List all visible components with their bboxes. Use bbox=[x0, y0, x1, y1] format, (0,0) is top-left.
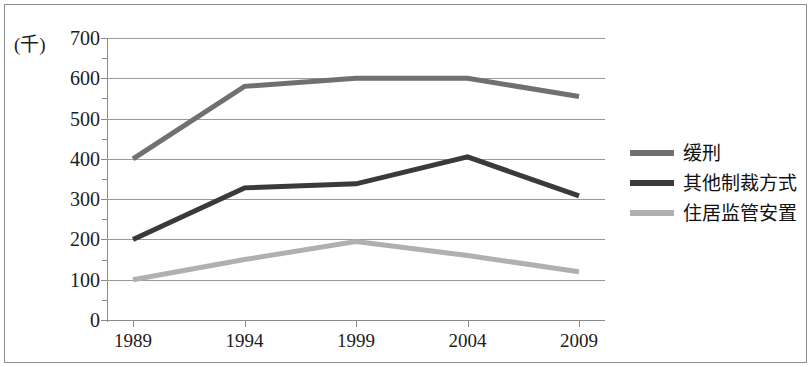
legend-item-label: 缓刑 bbox=[683, 144, 721, 163]
y-axis-tick-label: 200 bbox=[54, 229, 100, 249]
y-axis-tick-labels: 7006005004003002001000 bbox=[44, 0, 100, 367]
x-axis-tick-label: 2009 bbox=[539, 331, 619, 350]
chart-figure: (千) 7006005004003002001000 1989199419992… bbox=[0, 0, 811, 367]
x-axis-tick-label: 2004 bbox=[428, 331, 508, 350]
x-axis-tick-label: 1994 bbox=[205, 331, 285, 350]
x-axis-tick-mark bbox=[356, 321, 357, 327]
series-line bbox=[133, 241, 579, 279]
y-axis-tick-label: 700 bbox=[54, 28, 100, 48]
legend-item: 住居监管安置 bbox=[630, 198, 805, 228]
x-axis-tick-mark bbox=[245, 321, 246, 327]
x-axis-tick-mark bbox=[133, 321, 134, 327]
legend-item: 缓刑 bbox=[630, 138, 805, 168]
series-lines bbox=[107, 38, 605, 320]
y-axis-tick-label: 300 bbox=[54, 189, 100, 209]
legend-item-label: 住居监管安置 bbox=[683, 204, 797, 223]
legend-color-swatch bbox=[630, 180, 674, 186]
x-axis-tick-mark bbox=[468, 321, 469, 327]
legend-color-swatch bbox=[630, 210, 674, 216]
y-axis-unit-label: (千) bbox=[14, 29, 46, 56]
legend-item: 其他制裁方式 bbox=[630, 168, 805, 198]
legend-color-swatch bbox=[630, 150, 674, 156]
x-axis-tick-label: 1989 bbox=[93, 331, 173, 350]
chart-legend: 缓刑其他制裁方式住居监管安置 bbox=[630, 138, 805, 228]
y-axis-tick-label: 0 bbox=[54, 310, 100, 330]
y-axis-tick-label: 400 bbox=[54, 149, 100, 169]
series-line bbox=[133, 78, 579, 159]
legend-item-label: 其他制裁方式 bbox=[683, 174, 797, 193]
y-axis-tick-label: 600 bbox=[54, 68, 100, 88]
x-axis-tick-label: 1999 bbox=[316, 331, 396, 350]
y-axis-tick-label: 500 bbox=[54, 109, 100, 129]
x-axis-tick-mark bbox=[579, 321, 580, 327]
y-axis-tick-label: 100 bbox=[54, 270, 100, 290]
series-line bbox=[133, 157, 579, 240]
